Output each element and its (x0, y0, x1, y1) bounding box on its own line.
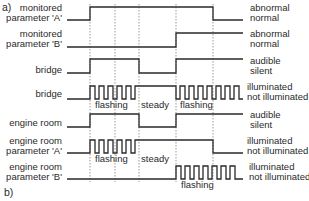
state-label-er-param-b: illuminated not illuminated (249, 162, 309, 182)
segment-bridge-flashing-2: flashing (180, 100, 213, 110)
segment-er-a-steady: steady (141, 154, 169, 164)
state-label-bridge-audible: audible silent (250, 56, 281, 76)
row-label-param-b: monitored parameter 'B' (6, 29, 62, 49)
wave-param-b (67, 33, 243, 47)
wave-engine-room-audible (67, 114, 243, 127)
row-label-bridge-visual: bridge (36, 89, 62, 99)
segment-er-b-flashing: flashing (181, 180, 214, 190)
state-label-param-b: abnormal normal (250, 29, 290, 49)
wave-er-param-a (67, 140, 243, 153)
state-label-er-param-a: illuminated not illuminated (247, 136, 308, 156)
wave-bridge-audible (67, 59, 243, 73)
row-label-engine-room-audible: engine room (9, 118, 62, 128)
part-b-label: b) (4, 187, 13, 197)
state-label-param-a: abnormal normal (250, 3, 290, 23)
state-label-bridge-visual: illuminated not illuminated (247, 82, 308, 102)
segment-bridge-steady: steady (141, 100, 169, 110)
state-label-engine-room-audible: audible silent (250, 110, 281, 130)
wave-param-a (67, 7, 243, 20)
row-label-bridge-audible: bridge (36, 65, 62, 75)
row-label-er-param-b: engine room parameter 'B' (6, 162, 62, 182)
segment-er-a-flashing: flashing (95, 154, 128, 164)
row-label-er-param-a: engine room parameter 'A' (6, 136, 62, 156)
wave-bridge-visual (67, 86, 243, 99)
wave-er-param-b (67, 166, 243, 179)
row-label-param-a: monitored parameter 'A' (6, 3, 62, 23)
segment-bridge-flashing-1: flashing (95, 100, 128, 110)
